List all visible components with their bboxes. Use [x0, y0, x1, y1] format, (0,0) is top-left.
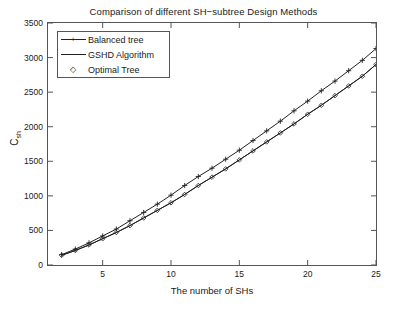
chart-figure: Comparison of different SH−subtree Desig… [0, 0, 407, 326]
y-tick-label: 3000 [5, 53, 43, 63]
x-tick-label: 5 [100, 269, 105, 279]
legend-label-0: Balanced tree [88, 35, 144, 45]
x-axis-label: The number of SHs [47, 285, 377, 296]
legend-item-0: + Balanced tree [58, 32, 169, 47]
series-marker-plus [223, 157, 228, 162]
legend-label-2: Optimal Tree [88, 65, 140, 75]
series-line [62, 49, 376, 255]
legend-marker-diamond-icon: ◇ [58, 62, 88, 77]
legend-marker-line-icon [58, 47, 88, 62]
y-tick-label: 1000 [5, 191, 43, 201]
y-tick-label: 0 [5, 260, 43, 270]
series-line [62, 64, 376, 255]
chart-title: Comparison of different SH−subtree Desig… [0, 6, 407, 17]
series-marker-plus [141, 210, 146, 215]
chart-legend: + Balanced tree GSHD Algorithm ◇ Optimal… [57, 31, 170, 78]
series-marker-plus [114, 226, 119, 231]
legend-item-1: GSHD Algorithm [58, 47, 169, 62]
y-tick-label: 1500 [5, 156, 43, 166]
y-tick-label: 2500 [5, 87, 43, 97]
x-tick-label: 20 [303, 269, 312, 279]
legend-label-1: GSHD Algorithm [88, 50, 154, 60]
y-tick-label: 2000 [5, 122, 43, 132]
series-marker-plus [209, 166, 214, 171]
legend-marker-plus-icon: + [58, 32, 88, 47]
x-tick-label: 10 [166, 269, 175, 279]
series-marker-plus [127, 218, 132, 223]
y-tick-label: 500 [5, 225, 43, 235]
legend-item-2: ◇ Optimal Tree [58, 62, 169, 77]
series-marker-plus [155, 202, 160, 207]
y-tick-label: 3500 [5, 18, 43, 28]
x-tick-label: 25 [371, 269, 380, 279]
series-marker-plus [196, 174, 201, 179]
x-tick-label: 15 [235, 269, 244, 279]
series-line [62, 64, 376, 255]
y-tick-labels: 0500100015002000250030003500 [0, 22, 43, 266]
x-tick-labels: 510152025 [47, 269, 377, 283]
